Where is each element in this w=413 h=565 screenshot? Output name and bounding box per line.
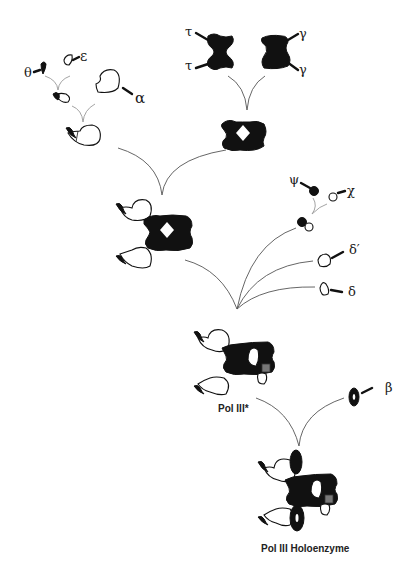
pol3-star-caption: Pol III* bbox=[218, 403, 249, 414]
merge-arrow-psi-chi bbox=[312, 198, 327, 214]
delta-prime-subunit: δ′ bbox=[318, 242, 360, 267]
pol3-prime-complex bbox=[116, 200, 193, 268]
delta-label: δ bbox=[348, 284, 356, 299]
psi-label: ψ bbox=[289, 172, 299, 187]
merge-arrow-to-core bbox=[72, 104, 95, 122]
alpha-label: α bbox=[135, 89, 145, 107]
holoenzyme-caption: Pol III Holoenzyme bbox=[261, 543, 350, 554]
pol3-star-complex bbox=[194, 330, 275, 395]
merge-arrows-to-pol3-star bbox=[185, 228, 315, 309]
alpha-subunit: α bbox=[96, 70, 145, 107]
theta-epsilon-complex bbox=[53, 93, 70, 103]
tau-gamma-complex bbox=[221, 120, 266, 150]
gamma-label-top: γ bbox=[299, 26, 307, 41]
holoenzyme-complex bbox=[258, 450, 338, 531]
merge-arrow-to-pol3-prime bbox=[118, 148, 226, 195]
beta-label: β bbox=[385, 380, 393, 395]
psi-chi-complex bbox=[298, 218, 314, 232]
merge-arrow-theta-epsilon bbox=[45, 76, 70, 90]
epsilon-label: ε bbox=[80, 48, 87, 64]
tau-label-bottom: τ bbox=[185, 58, 192, 73]
chi-subunit: χ bbox=[329, 183, 355, 201]
gamma-dimer: γ γ bbox=[262, 26, 308, 77]
merge-arrow-tau-gamma bbox=[228, 76, 265, 110]
tau-dimer: τ τ bbox=[185, 24, 233, 73]
chi-label: χ bbox=[347, 183, 355, 198]
core-polymerase bbox=[66, 125, 100, 145]
epsilon-subunit: ε bbox=[64, 48, 87, 65]
tau-label-top: τ bbox=[185, 24, 192, 39]
gamma-label-bottom: γ bbox=[299, 62, 307, 77]
theta-label: θ bbox=[24, 65, 32, 80]
merge-arrow-to-holoenzyme bbox=[256, 398, 344, 446]
delta-subunit: δ bbox=[320, 283, 356, 299]
theta-subunit: θ bbox=[24, 62, 46, 80]
assembly-diagram: θ ε α τ τ γ γ bbox=[0, 0, 413, 565]
delta-prime-label: δ′ bbox=[349, 242, 360, 257]
psi-subunit: ψ bbox=[289, 172, 319, 196]
beta-subunit: β bbox=[349, 380, 393, 406]
